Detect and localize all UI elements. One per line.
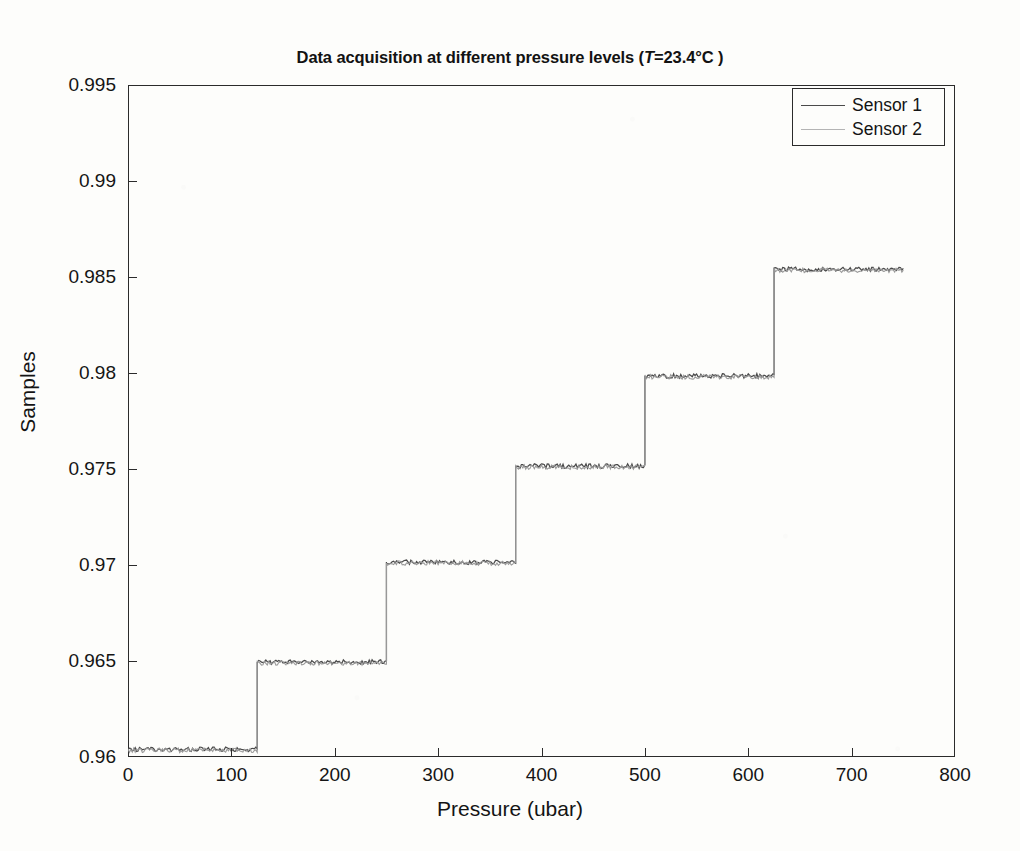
legend-label-sensor-2: Sensor 2 xyxy=(852,119,922,140)
y-tick-mark xyxy=(128,565,137,566)
x-tick-mark xyxy=(852,748,853,757)
y-tick-label: 0.98 xyxy=(0,362,116,384)
x-tick-mark xyxy=(542,748,543,757)
legend-item[interactable]: Sensor 1 xyxy=(799,93,938,117)
legend-item[interactable]: Sensor 2 xyxy=(799,117,938,141)
legend-label-sensor-1: Sensor 1 xyxy=(852,95,922,116)
chart-title-variable: T xyxy=(644,48,654,66)
y-tick-mark xyxy=(128,661,137,662)
x-tick-mark xyxy=(335,748,336,757)
figure-page: Data acquisition at different pressure l… xyxy=(0,0,1020,851)
y-tick-label: 0.965 xyxy=(0,650,116,672)
legend-line-swatch-sensor-1 xyxy=(801,105,845,106)
x-tick-label: 200 xyxy=(275,764,395,786)
data-series-line xyxy=(128,268,903,752)
series-canvas xyxy=(128,85,955,757)
x-tick-label: 700 xyxy=(792,764,912,786)
chart-title-prefix: Data acquisition at different pressure l… xyxy=(297,48,644,66)
y-tick-label: 0.995 xyxy=(0,74,116,96)
x-tick-mark xyxy=(438,748,439,757)
legend-box: Sensor 1 Sensor 2 xyxy=(792,88,945,146)
chart-title: Data acquisition at different pressure l… xyxy=(0,48,1020,67)
x-tick-label: 600 xyxy=(688,764,808,786)
x-tick-label: 100 xyxy=(171,764,291,786)
y-tick-label: 0.99 xyxy=(0,170,116,192)
y-tick-mark xyxy=(128,277,137,278)
y-axis-label: Samples xyxy=(16,302,40,482)
legend-line-swatch-sensor-2 xyxy=(801,129,845,130)
y-tick-label: 0.97 xyxy=(0,554,116,576)
x-tick-label: 800 xyxy=(895,764,1015,786)
x-tick-mark xyxy=(748,748,749,757)
chart-title-suffix: =23.4°C ) xyxy=(654,48,723,66)
x-tick-label: 300 xyxy=(378,764,498,786)
y-tick-mark xyxy=(128,373,137,374)
y-tick-mark xyxy=(128,469,137,470)
x-tick-label: 400 xyxy=(482,764,602,786)
y-tick-mark xyxy=(128,181,137,182)
x-tick-mark xyxy=(645,748,646,757)
x-tick-label: 500 xyxy=(585,764,705,786)
x-tick-label: 0 xyxy=(68,764,188,786)
y-tick-label: 0.975 xyxy=(0,458,116,480)
y-tick-label: 0.985 xyxy=(0,266,116,288)
x-tick-mark xyxy=(231,748,232,757)
x-axis-label: Pressure (ubar) xyxy=(0,797,1020,821)
